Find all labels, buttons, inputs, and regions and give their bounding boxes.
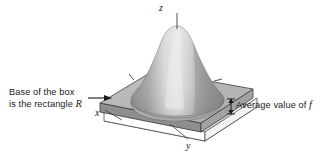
base-of-box-caption: Base of the box is the rectangle R	[9, 86, 82, 110]
base-caption-line-2-text: is the rectangle	[9, 99, 73, 109]
average-value-caption: Average value of f	[236, 99, 312, 111]
y-axis-label: y	[186, 140, 190, 151]
x-axis-label: x	[95, 107, 99, 118]
figure-container: Base of the box is the rectangle R Avera…	[0, 0, 325, 162]
function-surface	[131, 26, 224, 121]
z-axis-label: z	[159, 2, 163, 13]
tick-mark-right	[214, 79, 222, 81]
surface-plot-illustration	[0, 0, 325, 162]
tick-mark-upper-left	[129, 74, 134, 80]
rectangle-R-symbol: R	[76, 98, 83, 109]
base-caption-line-1: Base of the box	[9, 87, 74, 97]
average-caption-text: Average value of	[236, 100, 306, 110]
function-f-symbol: f	[309, 99, 312, 110]
base-caption-line-2: is the rectangle R	[9, 98, 82, 110]
